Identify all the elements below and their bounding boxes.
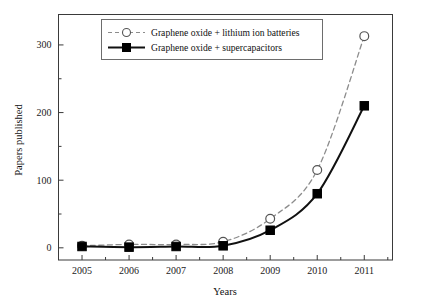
data-point-2008: [219, 242, 228, 251]
y-tick-label: 200: [37, 107, 52, 118]
legend-box: [102, 20, 323, 60]
data-point-2011: [360, 102, 369, 111]
y-tick-label: 100: [37, 175, 52, 186]
x-tick-label: 2010: [307, 265, 327, 276]
x-tick-label: 2009: [260, 265, 280, 276]
open-circle-icon: [123, 29, 131, 37]
data-point-2009: [266, 226, 275, 235]
data-point-2010: [313, 189, 322, 198]
y-tick-label: 0: [47, 242, 52, 253]
data-point-2005: [78, 242, 87, 251]
data-point-2009: [266, 214, 275, 223]
x-tick-label: 2008: [213, 265, 233, 276]
y-axis-title: Papers published: [13, 104, 24, 176]
line-chart: 0100200300 2005200620072008200920102011 …: [0, 0, 424, 306]
x-tick-label: 2007: [166, 265, 186, 276]
x-tick-label: 2011: [354, 265, 374, 276]
y-tick-label: 300: [37, 39, 52, 50]
chart-figure: 0100200300 2005200620072008200920102011 …: [0, 0, 424, 306]
data-point-2010: [313, 166, 322, 175]
x-tick-label: 2006: [119, 265, 139, 276]
legend-label-lithium-ion-batteries: Graphene oxide + lithium ion batteries: [151, 27, 300, 38]
chart-legend: Graphene oxide + lithium ion batteries G…: [102, 20, 323, 60]
data-point-2007: [172, 242, 181, 251]
x-axis-title: Years: [213, 286, 236, 297]
data-point-2006: [125, 243, 134, 252]
x-tick-label: 2005: [72, 265, 92, 276]
data-point-2011: [360, 32, 369, 41]
legend-label-supercapacitors: Graphene oxide + supercapacitors: [151, 42, 282, 53]
filled-square-icon: [122, 43, 131, 52]
